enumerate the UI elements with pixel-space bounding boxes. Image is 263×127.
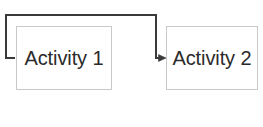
activity-node-activity-1[interactable]: Activity 1 xyxy=(16,26,112,90)
arrowhead-icon xyxy=(159,55,167,62)
activity-node-activity-2[interactable]: Activity 2 xyxy=(166,26,258,90)
activity-node-label: Activity 1 xyxy=(24,48,103,68)
activity-node-label: Activity 2 xyxy=(172,48,251,68)
diagram-canvas: Activity 1 Activity 2 xyxy=(0,0,263,127)
